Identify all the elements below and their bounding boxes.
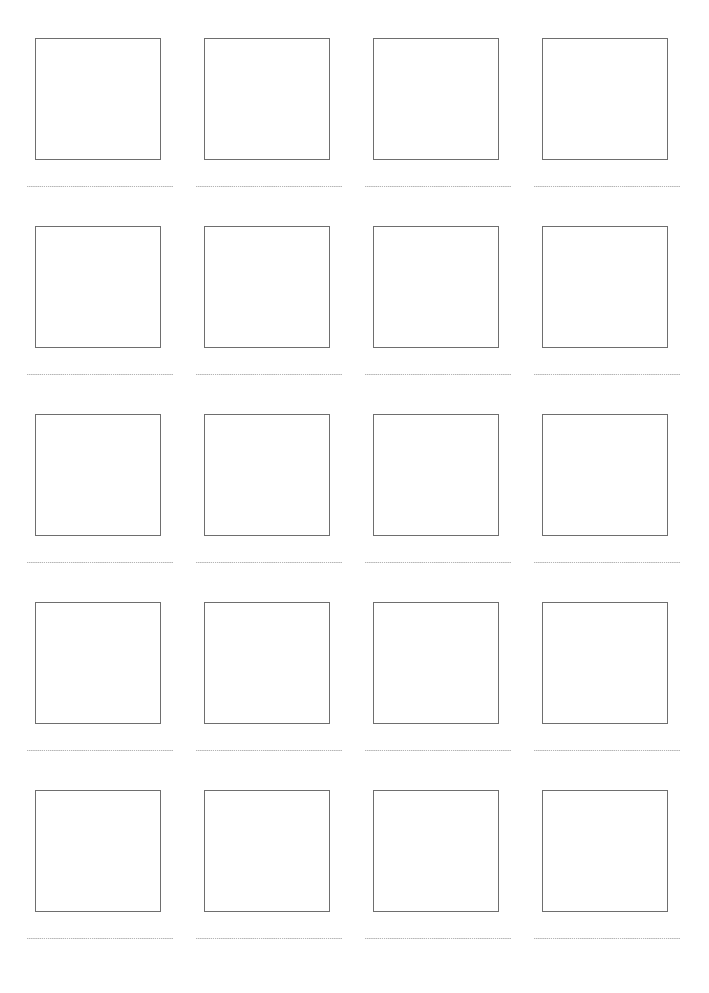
drawing-box[interactable]: [373, 790, 499, 912]
worksheet-cell: [365, 602, 534, 762]
drawing-box[interactable]: [373, 226, 499, 348]
drawing-box[interactable]: [542, 790, 668, 912]
worksheet-cell: [27, 38, 196, 198]
worksheet-cell: [534, 414, 703, 574]
drawing-box[interactable]: [542, 602, 668, 724]
writing-line[interactable]: [534, 562, 680, 564]
drawing-box[interactable]: [35, 602, 161, 724]
worksheet-cell: [196, 226, 365, 386]
worksheet-cell: [27, 226, 196, 386]
drawing-box[interactable]: [542, 414, 668, 536]
worksheet-cell: [365, 414, 534, 574]
drawing-box[interactable]: [35, 414, 161, 536]
drawing-box[interactable]: [204, 226, 330, 348]
writing-line[interactable]: [534, 750, 680, 752]
worksheet-cell: [27, 790, 196, 950]
worksheet-row: [0, 38, 709, 198]
writing-line[interactable]: [534, 938, 680, 940]
worksheet-cell: [534, 602, 703, 762]
drawing-box[interactable]: [373, 38, 499, 160]
writing-line[interactable]: [365, 750, 511, 752]
worksheet-row: [0, 414, 709, 574]
writing-line[interactable]: [27, 374, 173, 376]
writing-line[interactable]: [196, 186, 342, 188]
writing-line[interactable]: [196, 374, 342, 376]
drawing-box[interactable]: [204, 414, 330, 536]
worksheet-cell: [534, 226, 703, 386]
drawing-box[interactable]: [542, 226, 668, 348]
worksheet-grid: [0, 0, 709, 993]
worksheet-row: [0, 602, 709, 762]
writing-line[interactable]: [365, 562, 511, 564]
worksheet-cell: [27, 414, 196, 574]
worksheet-row: [0, 226, 709, 386]
writing-line[interactable]: [27, 938, 173, 940]
drawing-box[interactable]: [373, 602, 499, 724]
worksheet-cell: [365, 38, 534, 198]
writing-line[interactable]: [365, 374, 511, 376]
worksheet-cell: [196, 602, 365, 762]
writing-line[interactable]: [196, 938, 342, 940]
worksheet-page: [0, 0, 709, 993]
drawing-box[interactable]: [35, 226, 161, 348]
writing-line[interactable]: [196, 562, 342, 564]
writing-line[interactable]: [196, 750, 342, 752]
writing-line[interactable]: [365, 938, 511, 940]
writing-line[interactable]: [365, 186, 511, 188]
writing-line[interactable]: [27, 186, 173, 188]
worksheet-row: [0, 790, 709, 950]
worksheet-cell: [196, 414, 365, 574]
writing-line[interactable]: [534, 374, 680, 376]
drawing-box[interactable]: [204, 38, 330, 160]
drawing-box[interactable]: [204, 790, 330, 912]
worksheet-cell: [196, 790, 365, 950]
worksheet-cell: [196, 38, 365, 198]
writing-line[interactable]: [534, 186, 680, 188]
writing-line[interactable]: [27, 562, 173, 564]
worksheet-cell: [27, 602, 196, 762]
drawing-box[interactable]: [542, 38, 668, 160]
drawing-box[interactable]: [204, 602, 330, 724]
drawing-box[interactable]: [373, 414, 499, 536]
drawing-box[interactable]: [35, 38, 161, 160]
worksheet-cell: [534, 790, 703, 950]
worksheet-cell: [365, 226, 534, 386]
worksheet-cell: [365, 790, 534, 950]
drawing-box[interactable]: [35, 790, 161, 912]
worksheet-cell: [534, 38, 703, 198]
writing-line[interactable]: [27, 750, 173, 752]
